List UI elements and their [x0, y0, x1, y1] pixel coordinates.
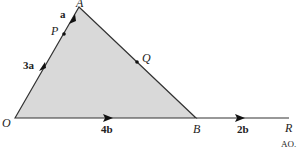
triangle-oab	[15, 7, 196, 118]
label-vector-3a: 3a	[23, 60, 34, 71]
label-a-point: A	[76, 0, 83, 9]
footer-code: AO.	[281, 140, 296, 149]
label-vector-a: a	[60, 9, 66, 20]
label-p: P	[51, 25, 58, 37]
label-b: B	[193, 123, 200, 135]
triangle-diagram	[0, 0, 300, 151]
label-r: R	[285, 122, 292, 134]
point-q	[135, 60, 139, 64]
label-o: O	[2, 117, 11, 129]
label-vector-4b: 4b	[101, 124, 113, 135]
point-p	[62, 32, 66, 36]
label-q: Q	[142, 52, 151, 64]
label-vector-2b: 2b	[237, 124, 249, 135]
